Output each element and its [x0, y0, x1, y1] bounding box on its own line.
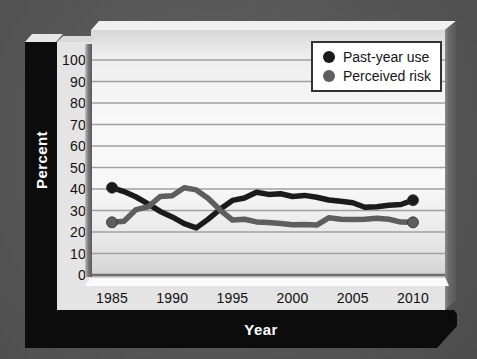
legend-item: Past-year use	[323, 49, 431, 65]
x-axis-title: Year	[244, 321, 277, 338]
panel-bottom-face	[85, 277, 449, 286]
panel-top-face	[91, 21, 457, 30]
y-tick-label: 80	[57, 95, 86, 111]
y-tick-label: 30	[57, 203, 86, 219]
y-tick-label: 10	[57, 246, 86, 262]
series-endpoint-dot-perceived-risk	[107, 217, 118, 228]
legend-item: Perceived risk	[323, 68, 431, 84]
legend-marker-icon	[323, 51, 335, 63]
y-axis-line	[85, 44, 92, 277]
x-tick-label: 1995	[202, 290, 262, 306]
y-tick-label: 0	[57, 267, 86, 283]
y-tick-label: 20	[57, 224, 86, 240]
y-axis-title: Percent	[33, 131, 50, 189]
x-axis-tick-area: 198519901995200020052010	[57, 286, 445, 310]
chart-figure: 0102030405060708090100 19851990199520002…	[0, 0, 477, 359]
x-tick-label: 1985	[82, 290, 142, 306]
y-tick-label: 60	[57, 138, 86, 154]
series-endpoint-dot-perceived-risk	[408, 217, 419, 228]
series-endpoint-dot-past-year-use	[107, 182, 118, 193]
y-tick-label: 100	[57, 52, 86, 68]
legend-marker-icon	[323, 70, 335, 82]
y-axis-bar-top-face	[25, 34, 63, 42]
series-endpoint-dot-past-year-use	[408, 195, 419, 206]
y-tick-label: 40	[57, 181, 86, 197]
y-tick-label: 70	[57, 117, 86, 133]
legend-label: Past-year use	[343, 49, 429, 65]
y-tick-label: 50	[57, 160, 86, 176]
legend: Past-year use Perceived risk	[311, 41, 442, 92]
x-tick-label: 2000	[263, 290, 323, 306]
y-axis-title-bar: Percent	[25, 42, 57, 348]
x-tick-label: 2010	[383, 290, 443, 306]
x-tick-label: 1990	[142, 290, 202, 306]
legend-label: Perceived risk	[343, 68, 431, 84]
y-tick-label: 90	[57, 74, 86, 90]
panel-right-face	[445, 21, 457, 311]
x-tick-label: 2005	[323, 290, 383, 306]
x-axis-title-bar: Year	[25, 310, 457, 348]
tick-area-top-face	[57, 36, 97, 42]
